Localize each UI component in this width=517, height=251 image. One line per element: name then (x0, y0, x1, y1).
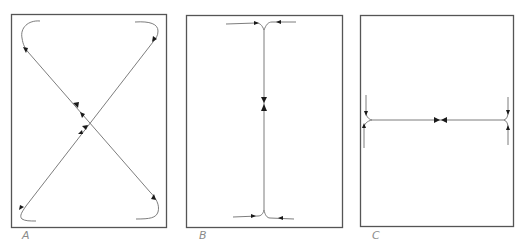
arrow-icon (23, 47, 28, 53)
arrow-icon (506, 110, 510, 115)
phase-portrait-figure (0, 0, 517, 251)
panel-c-left-bottom-branch (364, 120, 372, 148)
panel-c (361, 16, 514, 227)
panel-a-trajectory-tr-bl (21, 22, 158, 221)
panel-c-right-top-branch (504, 97, 508, 120)
panel-b-label: B (199, 229, 207, 242)
arrow-icon (254, 21, 259, 25)
arrow-icon (261, 104, 267, 111)
panel-b-top-left-branch (226, 23, 264, 30)
panel-b-bottom-left-branch (233, 210, 264, 217)
arrow-icon (251, 214, 256, 218)
panel-a-label: A (22, 229, 30, 242)
panel-b-frame (187, 16, 343, 228)
panel-c-left-top-branch (366, 95, 372, 120)
panel-a-trajectory-tl-br (22, 21, 159, 219)
arrow-icon (78, 130, 83, 134)
arrow-icon (441, 117, 447, 123)
arrow-icon (276, 20, 281, 24)
caption-fragment (0, 246, 517, 251)
arrow-icon (278, 216, 283, 220)
arrow-icon (151, 194, 156, 200)
arrow-icon (19, 205, 24, 210)
panel-a (12, 15, 167, 228)
panel-b (187, 16, 343, 228)
arrow-icon (434, 117, 440, 123)
arrow-icon (506, 125, 510, 130)
arrow-icon (261, 97, 267, 103)
panel-c-right-bottom-branch (504, 120, 508, 145)
panel-a-frame (12, 15, 167, 228)
arrow-icon (364, 111, 368, 116)
panel-c-label: C (372, 229, 380, 242)
